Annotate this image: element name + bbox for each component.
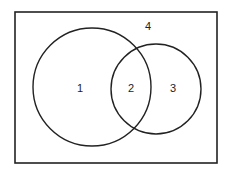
region-3-label: 3 bbox=[170, 82, 176, 94]
venn-diagram: 1 2 3 4 bbox=[0, 0, 230, 175]
region-2-label: 2 bbox=[128, 82, 134, 94]
small-circle bbox=[111, 44, 201, 134]
region-4-label: 4 bbox=[145, 20, 151, 32]
region-1-label: 1 bbox=[77, 82, 83, 94]
